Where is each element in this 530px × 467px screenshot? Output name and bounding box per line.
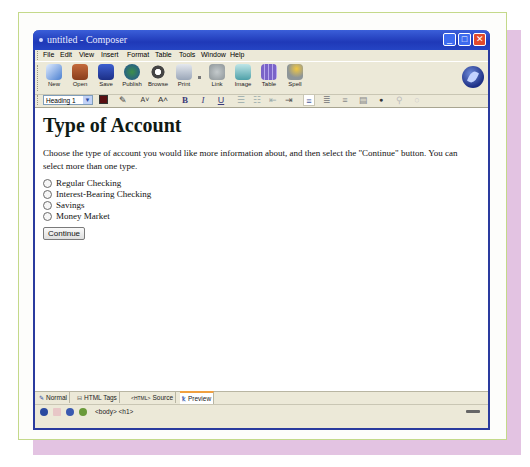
save-icon: [98, 64, 114, 80]
edit-mode-tabs: ✎Normal ⊟HTML Tags <HTML>Source ꝁPreview: [35, 391, 488, 404]
save-button[interactable]: Save: [94, 64, 118, 87]
menu-tools[interactable]: Tools: [179, 51, 195, 58]
menu-file[interactable]: File: [43, 51, 54, 58]
radio-button[interactable]: [43, 212, 52, 221]
tag-path[interactable]: <body> <h1>: [95, 405, 133, 419]
image-button[interactable]: Image: [231, 64, 255, 87]
paragraph-style-select[interactable]: Heading 1 ▼: [43, 95, 93, 105]
format-toolbar: Heading 1 ▼ ✎ A˅ A˄ B I U ☰ ☷ ⇤ ⇥ ≡ ≣ ≡ …: [35, 93, 488, 108]
tab-html-tags[interactable]: ⊟HTML Tags: [75, 392, 120, 403]
document-editor[interactable]: Type of Account Choose the type of accou…: [35, 108, 488, 391]
navigator-icon[interactable]: [40, 408, 48, 416]
source-icon: <HTML>: [131, 393, 150, 404]
tags-icon: ⊟: [77, 393, 82, 404]
close-button[interactable]: ✕: [473, 33, 486, 46]
menu-edit[interactable]: Edit: [60, 51, 72, 58]
continue-button[interactable]: Continue: [43, 227, 85, 240]
link-button[interactable]: Link: [205, 64, 229, 87]
text-color-button[interactable]: [99, 95, 108, 104]
justify-button[interactable]: ▤: [357, 94, 369, 106]
option-interest-bearing-checking[interactable]: Interest-Bearing Checking: [43, 189, 480, 200]
smaller-font-button[interactable]: A˅: [139, 94, 151, 106]
maximize-button[interactable]: □: [458, 33, 471, 46]
printer-icon: [176, 64, 192, 80]
align-center-button[interactable]: ≣: [321, 94, 333, 106]
larger-font-button[interactable]: A˄: [157, 94, 169, 106]
link-tool-button[interactable]: ⚲: [393, 94, 405, 106]
option-regular-checking[interactable]: Regular Checking: [43, 178, 480, 189]
radio-button[interactable]: [43, 190, 52, 199]
link-icon: [209, 64, 225, 80]
option-savings[interactable]: Savings: [43, 200, 480, 211]
spell-button[interactable]: Spell: [283, 64, 307, 87]
spell-icon: [287, 64, 303, 80]
underline-button[interactable]: U: [215, 94, 227, 106]
chevron-down-icon[interactable]: ▼: [83, 96, 92, 104]
tab-normal[interactable]: ✎Normal: [37, 392, 70, 403]
outdent-button[interactable]: ⇤: [267, 94, 279, 106]
tab-preview[interactable]: ꝁPreview: [180, 391, 214, 404]
minimize-button[interactable]: _: [443, 33, 456, 46]
composition-toolbar: New Open Save Publish Browse Print Link: [35, 61, 488, 95]
toolbar-separator: [198, 76, 201, 79]
open-button[interactable]: Open: [68, 64, 92, 87]
mail-icon[interactable]: [53, 408, 61, 416]
new-button[interactable]: New: [42, 64, 66, 87]
radio-button[interactable]: [43, 179, 52, 188]
eye-icon: [150, 64, 166, 80]
menu-help[interactable]: Help: [230, 51, 244, 58]
menu-insert[interactable]: Insert: [101, 51, 119, 58]
numbered-list-button[interactable]: ☷: [251, 94, 263, 106]
print-button[interactable]: Print: [172, 64, 196, 87]
menu-view[interactable]: View: [79, 51, 94, 58]
format-toolbar-grip[interactable]: [37, 95, 40, 105]
toolbar-grip[interactable]: [37, 65, 40, 91]
bullet-list-button[interactable]: ☰: [235, 94, 247, 106]
italic-button[interactable]: I: [197, 94, 209, 106]
window-title: untitled - Composer: [47, 30, 127, 50]
status-bar: <body> <h1>: [35, 404, 488, 419]
tab-source[interactable]: <HTML>Source: [129, 392, 176, 403]
table-icon: [261, 64, 277, 80]
composer-window: untitled - Composer _ □ ✕ File Edit View…: [33, 30, 490, 430]
new-document-icon: [46, 64, 62, 80]
page-heading: Type of Account: [43, 114, 480, 137]
address-book-icon[interactable]: [79, 408, 87, 416]
pencil-icon: ✎: [39, 393, 44, 404]
online-status-icon[interactable]: [466, 410, 480, 413]
radio-button[interactable]: [43, 201, 52, 210]
menu-table[interactable]: Table: [155, 51, 172, 58]
menu-format[interactable]: Format: [127, 51, 149, 58]
app-icon: [39, 38, 43, 42]
misc-button[interactable]: ○: [411, 94, 423, 106]
globe-icon: [124, 64, 140, 80]
indent-button[interactable]: ⇥: [283, 94, 295, 106]
highlight-button[interactable]: ✎: [117, 94, 129, 106]
menu-window[interactable]: Window: [201, 51, 226, 58]
option-money-market[interactable]: Money Market: [43, 211, 480, 222]
menu-bar: File Edit View Insert Format Table Tools…: [35, 50, 488, 61]
instructions-text: Choose the type of account you would lik…: [43, 147, 480, 173]
title-bar[interactable]: untitled - Composer _ □ ✕: [33, 30, 490, 50]
folder-icon: [72, 64, 88, 80]
menubar-grip[interactable]: [37, 51, 40, 60]
anchor-button[interactable]: ●: [375, 94, 387, 106]
align-left-button[interactable]: ≡: [303, 94, 315, 106]
image-icon: [235, 64, 251, 80]
browse-button[interactable]: Browse: [146, 64, 170, 87]
composer-icon[interactable]: [66, 408, 74, 416]
seamonkey-logo-icon[interactable]: [462, 66, 484, 88]
publish-button[interactable]: Publish: [120, 64, 144, 87]
align-right-button[interactable]: ≡: [339, 94, 351, 106]
table-button[interactable]: Table: [257, 64, 281, 87]
bold-button[interactable]: B: [179, 94, 191, 106]
